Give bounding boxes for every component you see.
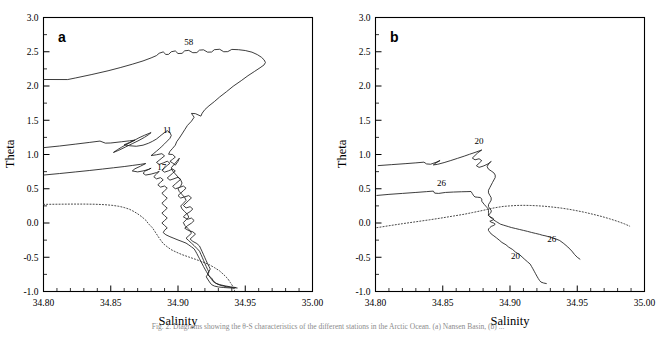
panel-a-x-ticklabel: 34.85 <box>100 298 122 308</box>
panel-a-letter: a <box>58 29 66 45</box>
panel-a-station-label: 17 <box>157 162 167 172</box>
panel-a-y-ticks <box>44 18 50 292</box>
panel-b-x-ticks <box>376 286 645 292</box>
panel-a-x-ticklabel: 34.95 <box>235 298 257 308</box>
panel-b-station-label: 20 <box>511 251 521 261</box>
panel-a-y-ticklabel: 0.0 <box>27 218 39 228</box>
panel-b-y-ticklabel: 2.0 <box>359 81 371 91</box>
figure-container: -1.0-0.50.00.51.01.52.02.53.0 34.8034.85… <box>0 0 656 337</box>
panel-a: -1.0-0.50.00.51.01.52.02.53.0 34.8034.85… <box>0 0 328 337</box>
panel-b: -1.0-0.50.00.51.01.52.02.53.0 34.8034.85… <box>328 0 656 337</box>
panel-a-plot-area: -1.0-0.50.00.51.01.52.02.53.0 34.8034.85… <box>23 13 323 308</box>
panel-a-yaxis-title: Theta <box>3 139 17 168</box>
panel-b-y-ticklabel: 2.5 <box>359 47 371 57</box>
panel-b-isopycnal-curve <box>377 205 630 227</box>
figure-caption: Fig. 2. Diagrams showing the θ-S charact… <box>0 322 656 331</box>
panel-a-y-ticklabel: -0.5 <box>23 253 38 263</box>
panel-b-x-ticklabel: 34.95 <box>567 298 589 308</box>
panel-b-y-ticks <box>376 18 382 292</box>
panel-b-x-ticklabel: 35.00 <box>634 298 656 308</box>
panel-a-y-ticklabel: 2.0 <box>27 81 39 91</box>
panel-b-station-label: 20 <box>475 136 485 146</box>
panel-a-frame <box>44 18 313 292</box>
panel-a-series <box>44 49 266 288</box>
panel-b-station-label: 26 <box>547 234 557 244</box>
panel-a-station-label: 11 <box>163 125 172 135</box>
panel-b-station-labels: 20262620 <box>437 136 557 261</box>
panel-a-x-ticklabels: 34.8034.8534.9034.9535.00 <box>33 298 324 308</box>
panel-b-y-ticklabel: -1.0 <box>355 287 370 297</box>
panel-b-station-label: 26 <box>437 178 447 188</box>
panel-a-station-label: 58 <box>184 37 194 47</box>
panel-a-x-ticklabel: 34.80 <box>33 298 55 308</box>
panel-b-y-ticklabels: -1.0-0.50.00.51.01.52.02.53.0 <box>355 13 370 297</box>
panel-a-y-ticklabel: 1.0 <box>27 150 39 160</box>
panel-a-x-ticklabel: 34.90 <box>167 298 189 308</box>
panel-b-x-ticklabel: 34.85 <box>432 298 454 308</box>
panel-a-x-ticks <box>44 286 313 292</box>
panel-b-isopycnal <box>377 205 630 227</box>
panel-b-y-ticklabel: -0.5 <box>355 253 370 263</box>
panel-b-y-ticklabel: 1.0 <box>359 150 371 160</box>
panel-b-trace-26-upper <box>377 191 580 259</box>
panel-b-y-ticklabel: 0.0 <box>359 218 371 228</box>
panel-a-station-labels: 581117 <box>157 37 193 172</box>
panel-a-isopycnal-curve <box>44 204 235 290</box>
panel-a-isopycnal <box>44 204 235 290</box>
panel-a-y-ticklabel: 1.5 <box>27 116 39 126</box>
panel-a-y-ticklabel: 3.0 <box>27 13 39 23</box>
panel-b-y-ticklabel: 3.0 <box>359 13 371 23</box>
panel-b-trace-20-upper <box>378 150 546 284</box>
panel-b-series <box>377 150 580 284</box>
panel-a-y-ticklabel: -1.0 <box>23 287 38 297</box>
panel-b-x-ticklabel: 34.90 <box>499 298 521 308</box>
panel-a-trace-11 <box>44 131 238 288</box>
panel-b-x-ticklabel: 34.80 <box>365 298 387 308</box>
panel-b-yaxis-title: Theta <box>335 139 349 168</box>
panel-b-plot-area: -1.0-0.50.00.51.01.52.02.53.0 34.8034.85… <box>355 13 655 308</box>
panel-a-y-ticklabel: 2.5 <box>27 47 39 57</box>
panel-a-trace-58 <box>44 49 266 288</box>
panel-b-letter: b <box>390 29 399 45</box>
panel-a-y-ticklabel: 0.5 <box>27 184 39 194</box>
panel-b-y-ticklabel: 1.5 <box>359 116 371 126</box>
panel-b-y-ticklabel: 0.5 <box>359 184 371 194</box>
panel-a-svg: -1.0-0.50.00.51.01.52.02.53.0 34.8034.85… <box>0 0 328 337</box>
panel-b-x-ticklabels: 34.8034.8534.9034.9535.00 <box>365 298 656 308</box>
panel-a-y-ticklabels: -1.0-0.50.00.51.01.52.02.53.0 <box>23 13 38 297</box>
panel-b-svg: -1.0-0.50.00.51.01.52.02.53.0 34.8034.85… <box>328 0 656 337</box>
panel-a-x-ticklabel: 35.00 <box>302 298 324 308</box>
